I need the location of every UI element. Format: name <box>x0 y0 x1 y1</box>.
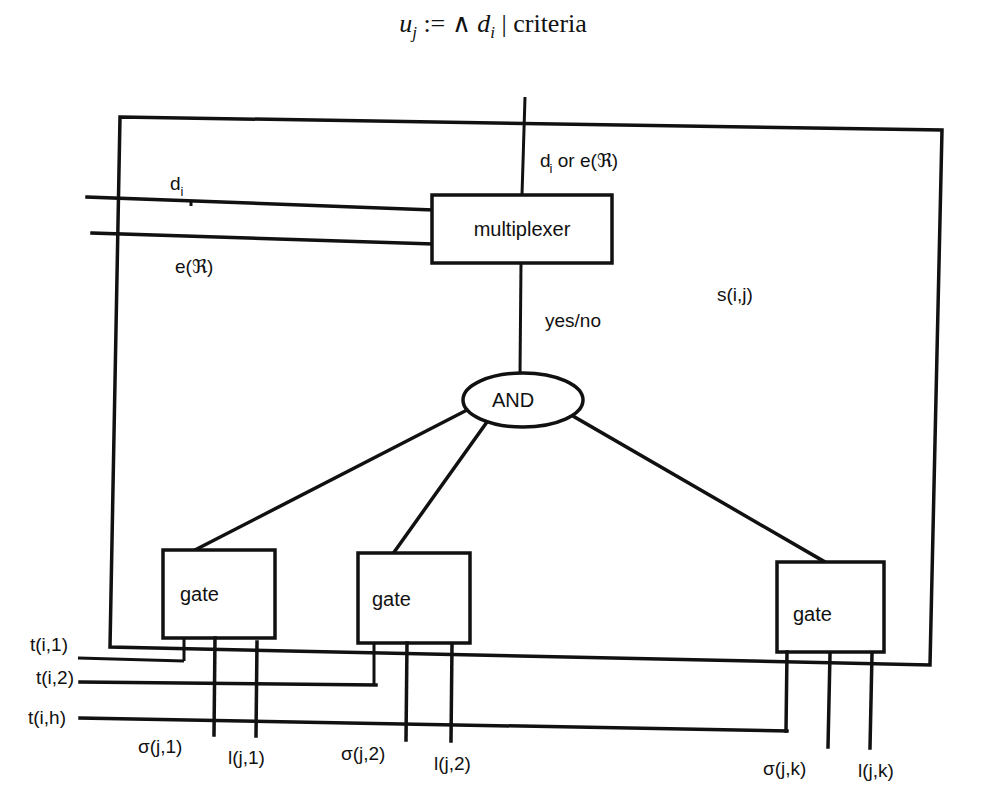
container-label: s(i,j) <box>717 284 753 305</box>
t-input-2-label: t(i,2) <box>36 667 74 688</box>
and-label: AND <box>492 389 534 411</box>
input-e-label: e(ℜ) <box>175 256 213 277</box>
gate-3-l-label: l(j,k) <box>858 760 894 781</box>
t-input-2-wire <box>80 682 376 685</box>
gate-2-sigma-label: σ(j,2) <box>341 743 385 764</box>
t-input-1-wire <box>78 658 184 661</box>
and-to-gate-1-wire <box>195 410 467 550</box>
gate-1-label: gate <box>180 583 219 605</box>
gate-3-l-pin <box>870 654 872 748</box>
gate-3-label: gate <box>793 603 832 625</box>
top-output-label: di or e(ℜ) <box>540 150 618 176</box>
gate-2-l-pin <box>451 645 452 741</box>
top-output-wire <box>522 97 525 195</box>
input-d-wire <box>87 197 432 210</box>
and-to-gate-3-wire <box>573 416 825 562</box>
input-e-wire <box>92 233 432 244</box>
gate-1-sigma-label: σ(j,1) <box>138 736 182 757</box>
gate-3-sigma-pin <box>828 654 830 747</box>
gate-2-l-label: l(j,2) <box>434 753 471 774</box>
gate-3-t-pin <box>786 652 787 731</box>
mux-to-and-wire <box>520 263 521 374</box>
input-d-label: di <box>170 173 184 199</box>
gate-3-sigma-label: σ(j,k) <box>763 758 806 779</box>
t-input-1-label: t(i,1) <box>30 634 68 655</box>
gate-2-label: gate <box>372 588 411 610</box>
t-input-h-label: t(i,h) <box>28 707 66 728</box>
gate-1-l-label: l(j,1) <box>228 747 265 768</box>
multiplexer-label: multiplexer <box>474 218 571 240</box>
t-input-h-wire <box>80 718 787 731</box>
yes-no-label: yes/no <box>545 310 601 331</box>
diagram-canvas: di or e(ℜ) di e(ℜ) multiplexer s(i,j) ye… <box>0 0 986 800</box>
